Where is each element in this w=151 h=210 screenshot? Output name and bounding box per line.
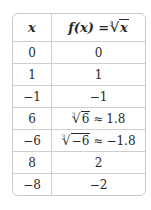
cube-root-symbol: 3√−6 [61, 133, 90, 148]
cell-fx: −2 [52, 174, 145, 195]
cell-fx: 1 [52, 64, 145, 85]
header-fx-label: f(x) = [68, 20, 109, 35]
cube-root-table: x f(x) = 3√x 0 0 1 1 −1 −1 6 3√6 ≈ 1.8 −… [12, 13, 146, 196]
header-fx: f(x) = 3√x [52, 14, 145, 41]
cell-fx: 3√6 ≈ 1.8 [52, 108, 145, 129]
table-row: 0 0 [13, 41, 145, 63]
table-row: −1 −1 [13, 85, 145, 107]
cell-x: 0 [13, 42, 52, 63]
cell-x: 8 [13, 152, 52, 173]
cell-x: −6 [13, 130, 52, 151]
cell-fx: 2 [52, 152, 145, 173]
cell-fx: 3√−6 ≈ −1.8 [52, 130, 145, 151]
cell-fx: 0 [52, 42, 145, 63]
table-row: 6 3√6 ≈ 1.8 [13, 107, 145, 129]
cube-root-symbol: 3√6 [72, 111, 91, 126]
cube-root-symbol: 3√x [109, 20, 129, 35]
table-row: 8 2 [13, 151, 145, 173]
header-x: x [13, 14, 52, 41]
table-row: −8 −2 [13, 173, 145, 195]
cell-x: 1 [13, 64, 52, 85]
table-row: 1 1 [13, 63, 145, 85]
cell-fx: −1 [52, 86, 145, 107]
cell-x: −1 [13, 86, 52, 107]
cell-x: −8 [13, 174, 52, 195]
table-row: −6 3√−6 ≈ −1.8 [13, 129, 145, 151]
cell-x: 6 [13, 108, 52, 129]
table-header-row: x f(x) = 3√x [13, 14, 145, 41]
